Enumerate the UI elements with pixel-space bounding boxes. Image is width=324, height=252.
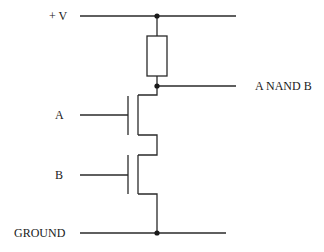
- transistor-b-source-wire: [138, 194, 157, 233]
- resistor: [147, 36, 167, 76]
- supply-junction-dot: [154, 13, 159, 18]
- ground-label: GROUND: [14, 226, 65, 240]
- output-junction-dot: [154, 83, 159, 88]
- output-label: A NAND B: [255, 79, 312, 93]
- input-a-label: A: [55, 108, 64, 122]
- transistor-a-drain-wire: [138, 86, 157, 95]
- ground-junction-dot: [154, 230, 159, 235]
- input-b-label: B: [55, 168, 63, 182]
- nand-gate-circuit-diagram: + V A B A NAND B GROUND: [0, 0, 324, 252]
- series-connection-wire: [138, 135, 157, 155]
- supply-label: + V: [49, 9, 67, 23]
- circuit-schematic: [0, 0, 324, 252]
